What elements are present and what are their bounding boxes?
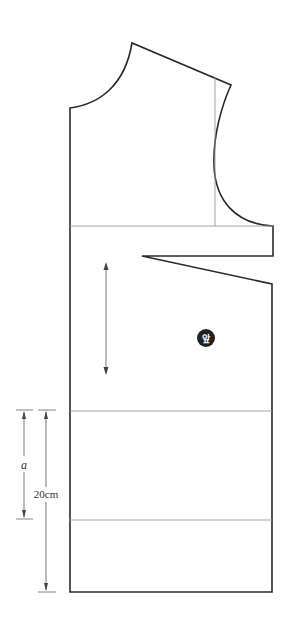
grainline-arrow [104,262,109,375]
front-badge: 앞 [197,329,215,347]
pattern-outline [70,43,273,592]
dimension-20cm: 20cm [34,410,59,592]
dimension-a-label: a [21,458,27,472]
dimension-a: a [16,410,33,519]
front-badge-label: 앞 [202,333,211,344]
pattern-canvas: 앞 a 20cm [0,0,290,631]
dimension-20cm-label: 20cm [34,488,59,500]
